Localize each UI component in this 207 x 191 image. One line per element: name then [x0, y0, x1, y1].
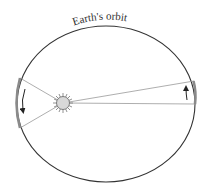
- left-arc-highlight: [17, 78, 21, 128]
- right-arrow-icon: [186, 88, 187, 100]
- left-arrow-icon: [22, 89, 25, 111]
- orbit-diagram: Earth's orbit: [0, 0, 207, 191]
- sun-icon: [53, 93, 73, 113]
- right-sector: [63, 81, 196, 104]
- orbit-label: Earth's orbit: [71, 10, 128, 28]
